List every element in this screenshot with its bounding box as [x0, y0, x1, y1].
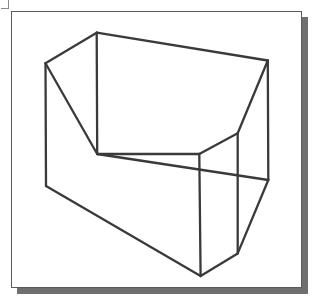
edge-top-left-slant [46, 33, 97, 64]
edge-cross-line [97, 154, 268, 180]
edge-center-vertical [199, 154, 200, 276]
edge-bottom-right-slant [201, 253, 238, 276]
edge-front-left-vertical [97, 33, 98, 154]
edge-v-right-slant [199, 133, 237, 154]
edge-left-inner-slant [46, 63, 98, 154]
edge-bottom-left-slant [46, 186, 201, 276]
edge-right-lower-slant [238, 180, 269, 253]
edge-top-edge [97, 33, 268, 61]
prism-wireframe-figure [0, 0, 319, 301]
page-root [0, 0, 319, 301]
edge-right-outer-vertical [268, 61, 269, 181]
edge-left-vertical [46, 63, 47, 186]
edge-right-upper-slant [238, 61, 268, 134]
wireframe-edge-group [46, 33, 269, 276]
